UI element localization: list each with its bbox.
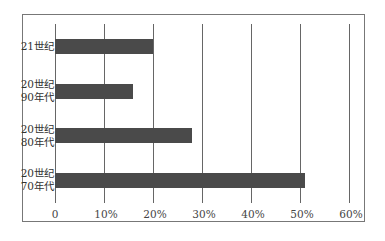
category-label-21st-century: 21世纪 xyxy=(21,40,54,53)
x-tick-60: 60% xyxy=(339,208,362,220)
bar-1990s xyxy=(55,84,133,99)
bar-1970s xyxy=(55,173,305,188)
category-label-1980s: 20世纪 80年代 xyxy=(21,123,54,149)
gridline-60 xyxy=(349,24,350,203)
bar-21st-century xyxy=(55,39,153,54)
x-tick-40: 40% xyxy=(241,208,264,220)
x-tick-10: 10% xyxy=(94,208,117,220)
category-label-1970s: 20世纪 70年代 xyxy=(21,167,54,193)
x-tick-20: 20% xyxy=(143,208,166,220)
x-tick-50: 50% xyxy=(290,208,313,220)
bar-1980s xyxy=(55,128,192,143)
x-tick-30: 30% xyxy=(192,208,215,220)
x-tick-0: 0 xyxy=(52,208,59,220)
category-label-1990s: 20世纪 90年代 xyxy=(21,78,54,104)
